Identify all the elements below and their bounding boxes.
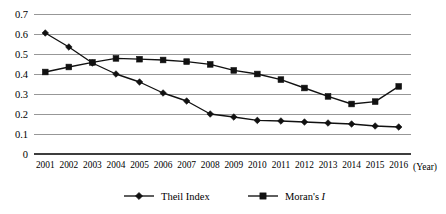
legend-marker-diamond bbox=[135, 192, 142, 199]
data-point-square bbox=[396, 84, 402, 90]
y-axis-tick-label: 0.2 bbox=[15, 109, 28, 120]
data-point-square bbox=[254, 71, 260, 77]
data-point-diamond bbox=[136, 79, 143, 86]
data-point-diamond bbox=[230, 114, 237, 121]
data-point-diamond bbox=[254, 117, 261, 124]
legend-label-2: Moran's I bbox=[285, 191, 326, 202]
x-axis-tick-label: 2014 bbox=[342, 160, 361, 170]
gridlines bbox=[34, 14, 411, 154]
x-axis-tick-label: 2002 bbox=[59, 160, 78, 170]
data-point-diamond bbox=[207, 111, 214, 118]
data-point-square bbox=[302, 85, 308, 91]
x-axis-tick-label: 2010 bbox=[248, 160, 267, 170]
x-axis-tick-label: 2008 bbox=[201, 160, 220, 170]
data-point-square bbox=[184, 59, 190, 65]
x-axis-tick-label: 2001 bbox=[36, 160, 55, 170]
x-axis-tick-label: 2016 bbox=[389, 160, 408, 170]
data-point-diamond bbox=[372, 123, 379, 130]
data-point-diamond bbox=[348, 121, 355, 128]
x-axis-tick-label: 2009 bbox=[224, 160, 243, 170]
data-point-diamond bbox=[301, 119, 308, 126]
data-point-square bbox=[349, 101, 355, 107]
data-point-square bbox=[160, 57, 166, 63]
series-line-1 bbox=[45, 33, 398, 127]
data-point-diamond bbox=[160, 90, 167, 97]
data-point-square bbox=[278, 77, 284, 83]
y-axis-tick-label: 0.6 bbox=[15, 29, 28, 40]
data-point-diamond bbox=[278, 118, 285, 125]
x-axis-unit-label: (Year) bbox=[413, 161, 437, 173]
chart-legend: Theil IndexMoran's I bbox=[124, 191, 326, 202]
data-point-square bbox=[207, 62, 213, 68]
series-layer bbox=[42, 30, 402, 131]
data-point-square bbox=[90, 60, 96, 66]
x-axis-tick-label: 2011 bbox=[272, 160, 291, 170]
legend-label-1: Theil Index bbox=[161, 191, 210, 202]
x-axis-tick-label: 2012 bbox=[295, 160, 314, 170]
data-point-diamond bbox=[395, 124, 402, 131]
data-point-diamond bbox=[42, 30, 49, 37]
data-point-square bbox=[231, 68, 237, 74]
y-axis-tick-label: 0 bbox=[23, 149, 28, 160]
data-point-square bbox=[137, 56, 143, 62]
data-point-square bbox=[372, 99, 378, 105]
x-axis-tick-label: 2003 bbox=[83, 160, 102, 170]
y-axis-tick-label: 0.7 bbox=[15, 9, 28, 20]
chart-figure: 00.10.20.30.40.50.60.7 20012002200320042… bbox=[0, 0, 446, 214]
y-axis-tick-label: 0.1 bbox=[15, 129, 28, 140]
y-axis-tick-label: 0.3 bbox=[15, 89, 28, 100]
data-point-square bbox=[42, 69, 48, 75]
line-chart: 00.10.20.30.40.50.60.7 20012002200320042… bbox=[0, 0, 446, 214]
x-axis-tick-label: 2004 bbox=[107, 160, 126, 170]
y-axis-tick-label: 0.5 bbox=[15, 49, 28, 60]
x-axis-tick-label: 2006 bbox=[154, 160, 173, 170]
y-axis-tick-label: 0.4 bbox=[15, 69, 29, 80]
x-axis-tick-label: 2013 bbox=[319, 160, 338, 170]
data-point-diamond bbox=[183, 98, 190, 105]
data-point-square bbox=[66, 64, 72, 70]
data-point-square bbox=[113, 56, 119, 62]
legend-marker-square bbox=[260, 193, 266, 199]
x-axis-tick-labels: 2001200220032004200520062007200820092010… bbox=[36, 160, 409, 170]
x-axis-tick-label: 2005 bbox=[130, 160, 149, 170]
data-point-diamond bbox=[325, 120, 332, 127]
data-point-square bbox=[325, 94, 331, 100]
x-axis-tick-label: 2015 bbox=[366, 160, 385, 170]
data-point-diamond bbox=[113, 71, 120, 78]
x-axis-tick-label: 2007 bbox=[177, 160, 196, 170]
y-axis-tick-labels: 00.10.20.30.40.50.60.7 bbox=[15, 9, 29, 160]
